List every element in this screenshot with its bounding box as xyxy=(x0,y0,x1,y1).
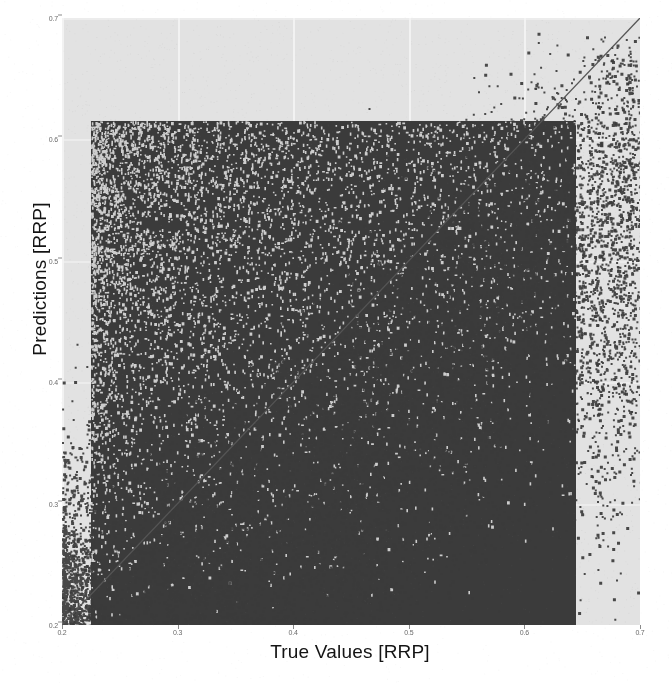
x-tick-mark xyxy=(62,625,63,629)
plot-area xyxy=(62,18,640,625)
y-tick-label: 0.7 xyxy=(32,15,58,22)
x-tick-mark xyxy=(524,625,525,629)
y-tick-mark xyxy=(58,379,62,380)
y-tick-label: 0.6 xyxy=(32,136,58,143)
y-tick-mark xyxy=(58,15,62,16)
y-axis-ticks: 0.20.30.40.50.60.7 xyxy=(28,18,58,625)
x-axis-label: True Values [RRP] xyxy=(60,641,640,663)
x-tick-mark xyxy=(640,625,641,629)
y-tick-label: 0.3 xyxy=(32,500,58,507)
x-tick-label: 0.5 xyxy=(389,629,429,636)
scatter-plot-figure: Predictions [RRP] 0.20.30.40.50.60.7 0.2… xyxy=(0,0,672,683)
x-tick-label: 0.4 xyxy=(273,629,313,636)
y-tick-label: 0.4 xyxy=(32,379,58,386)
x-tick-label: 0.7 xyxy=(620,629,660,636)
y-tick-mark xyxy=(58,500,62,501)
y-tick-label: 0.2 xyxy=(32,622,58,629)
y-tick-mark xyxy=(58,136,62,137)
y-tick-mark xyxy=(58,257,62,258)
x-tick-label: 0.3 xyxy=(158,629,198,636)
y-tick-label: 0.5 xyxy=(32,257,58,264)
x-tick-label: 0.2 xyxy=(42,629,82,636)
x-tick-mark xyxy=(178,625,179,629)
x-tick-mark xyxy=(409,625,410,629)
identity-line xyxy=(62,18,640,625)
x-tick-label: 0.6 xyxy=(504,629,544,636)
x-tick-mark xyxy=(293,625,294,629)
y-tick-mark xyxy=(58,622,62,623)
